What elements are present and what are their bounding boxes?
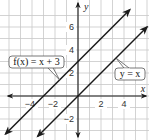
x-axis-label: x (140, 83, 146, 94)
y-axis-label: y (83, 1, 89, 12)
y-tick-label: 6 (69, 22, 74, 32)
x-tick-label: 4 (121, 99, 126, 109)
coordinate-plane-chart: xy −4−224−2246 f(x) = x + 3y = x (0, 0, 149, 140)
y-tick-label: −2 (64, 114, 74, 124)
x-tick-label: −4 (25, 99, 35, 109)
x-tick-label: −2 (48, 99, 58, 109)
callout-label-f: f(x) = x + 3 (13, 56, 59, 68)
callout-label-y: y = x (120, 68, 141, 79)
x-tick-label: 2 (98, 99, 103, 109)
line-y-equals-x (38, 27, 147, 136)
y-tick-label: 4 (69, 45, 74, 55)
line-callouts: f(x) = x + 3y = x (9, 56, 145, 80)
